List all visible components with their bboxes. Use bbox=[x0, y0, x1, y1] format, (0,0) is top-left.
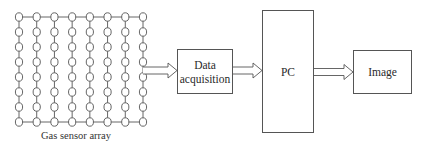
gas-sensor-array bbox=[15, 13, 146, 126]
sensor-element bbox=[51, 13, 58, 21]
sensor-element bbox=[33, 58, 40, 66]
sensor-element bbox=[86, 118, 93, 126]
sensor-element bbox=[15, 103, 22, 111]
sensor-element bbox=[15, 13, 22, 21]
sensor-element bbox=[104, 73, 111, 81]
sensor-element bbox=[104, 13, 111, 21]
data-acquisition-label-line2: acquisition bbox=[180, 72, 230, 86]
sensor-element bbox=[51, 28, 58, 36]
sensor-element bbox=[15, 88, 22, 96]
sensor-element bbox=[104, 43, 111, 51]
sensor-element bbox=[86, 73, 93, 81]
sensor-element bbox=[104, 103, 111, 111]
sensor-element bbox=[86, 88, 93, 96]
image-block: Image bbox=[353, 50, 412, 94]
arrow-daq-to-pc bbox=[232, 63, 262, 78]
sensor-element bbox=[104, 28, 111, 36]
sensor-element bbox=[51, 118, 58, 126]
sensor-element bbox=[122, 88, 129, 96]
sensor-element bbox=[15, 28, 22, 36]
sensor-element bbox=[33, 43, 40, 51]
arrow-pc-to-image bbox=[313, 65, 353, 80]
sensor-element bbox=[122, 73, 129, 81]
pc-label: PC bbox=[281, 65, 295, 79]
data-acquisition-label-line1: Data bbox=[180, 58, 230, 72]
sensor-element bbox=[69, 118, 76, 126]
sensor-element bbox=[139, 43, 146, 51]
sensor-element bbox=[69, 13, 76, 21]
sensor-element bbox=[104, 58, 111, 66]
sensor-element bbox=[86, 58, 93, 66]
sensor-element bbox=[69, 28, 76, 36]
sensor-element bbox=[139, 58, 146, 66]
sensor-element bbox=[69, 103, 76, 111]
sensor-element bbox=[86, 43, 93, 51]
data-acquisition-block: Data acquisition bbox=[177, 49, 233, 94]
sensor-element bbox=[122, 43, 129, 51]
sensor-element bbox=[33, 88, 40, 96]
sensor-element bbox=[33, 118, 40, 126]
sensor-element bbox=[51, 58, 58, 66]
sensor-element bbox=[51, 103, 58, 111]
sensor-element bbox=[104, 88, 111, 96]
pc-block: PC bbox=[262, 10, 314, 133]
sensor-element bbox=[33, 28, 40, 36]
sensor-element bbox=[15, 58, 22, 66]
sensor-element bbox=[33, 13, 40, 21]
sensor-element bbox=[51, 43, 58, 51]
sensor-element bbox=[139, 28, 146, 36]
sensor-element bbox=[139, 103, 146, 111]
sensor-element bbox=[33, 103, 40, 111]
sensor-element bbox=[69, 73, 76, 81]
sensor-element bbox=[139, 118, 146, 126]
sensor-element bbox=[122, 28, 129, 36]
sensor-element bbox=[122, 13, 129, 21]
sensor-element bbox=[86, 28, 93, 36]
sensor-element bbox=[33, 73, 40, 81]
sensor-element bbox=[15, 43, 22, 51]
sensor-element bbox=[104, 118, 111, 126]
sensor-element bbox=[86, 13, 93, 21]
image-label: Image bbox=[368, 65, 397, 79]
sensor-element bbox=[139, 88, 146, 96]
sensor-element bbox=[15, 118, 22, 126]
arrow-array-to-daq bbox=[143, 63, 177, 78]
sensor-element bbox=[15, 73, 22, 81]
sensor-element bbox=[69, 43, 76, 51]
sensor-element bbox=[122, 118, 129, 126]
sensor-element bbox=[122, 103, 129, 111]
sensor-element bbox=[122, 58, 129, 66]
sensor-element bbox=[51, 73, 58, 81]
sensor-element bbox=[69, 58, 76, 66]
sensor-element bbox=[51, 88, 58, 96]
sensor-element bbox=[86, 103, 93, 111]
sensor-element bbox=[139, 13, 146, 21]
sensor-array-caption: Gas sensor array bbox=[41, 130, 111, 141]
sensor-element bbox=[69, 88, 76, 96]
